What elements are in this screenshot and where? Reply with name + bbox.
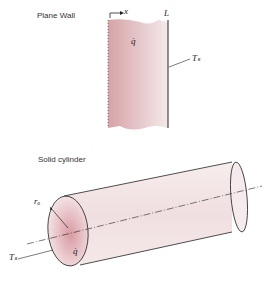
diagram-canvas xyxy=(0,0,273,285)
cylinder-generation-label: q̇ xyxy=(73,246,78,256)
cylinder-title: Solid cylinder xyxy=(38,155,86,164)
solid-cylinder xyxy=(18,161,262,267)
wall-generation-label: q̇ xyxy=(131,36,136,46)
x-axis-label: x xyxy=(124,6,128,16)
thickness-label: L xyxy=(164,8,169,18)
radius-label: rₒ xyxy=(34,196,40,206)
cylinder-surface-temp-label: Tₛ xyxy=(9,252,17,262)
plane-wall xyxy=(108,11,190,130)
wall-surface-temp-label: Tₛ xyxy=(192,53,200,63)
ts-leader-line xyxy=(169,59,190,67)
ts-leader-line xyxy=(18,250,53,259)
plane-wall-title: Plane Wall xyxy=(37,11,75,20)
